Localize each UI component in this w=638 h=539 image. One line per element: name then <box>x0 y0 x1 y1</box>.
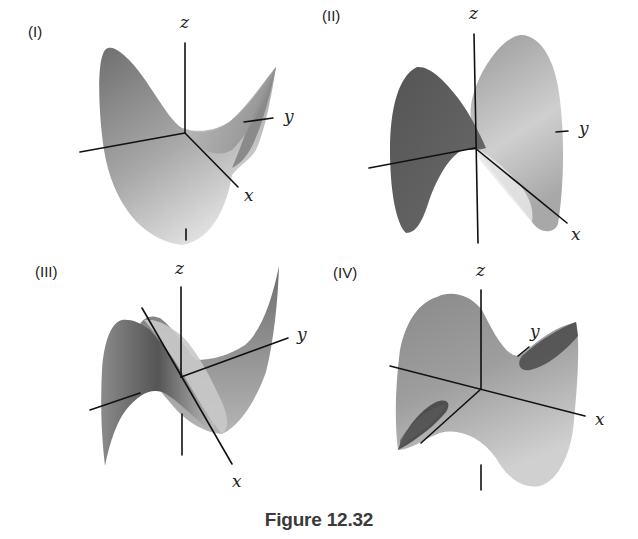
x-axis-label-iv: x <box>595 409 605 429</box>
z-axis-label-i: z <box>179 12 190 32</box>
surface-iii <box>101 266 279 466</box>
panel-ii: (II) z y x <box>322 3 589 244</box>
y-axis-label-iv: y <box>529 321 540 341</box>
x-axis-label-i: x <box>244 185 254 205</box>
x-axis-label-ii: x <box>571 224 581 244</box>
panel-label-ii: (II) <box>322 7 340 24</box>
panel-iv: (IV) z y x <box>333 260 605 490</box>
z-axis-label-iv: z <box>475 260 486 280</box>
panel-label-i: (I) <box>28 23 42 40</box>
panel-iii: (III) z y x <box>35 258 307 491</box>
y-axis-label-ii: y <box>578 118 589 138</box>
panel-label-iv: (IV) <box>333 264 357 281</box>
panel-label-iii: (III) <box>35 263 58 280</box>
z-axis-label-ii: z <box>468 3 479 23</box>
figure-12-32: (I) z y x (II) <box>0 0 638 539</box>
surface-i <box>99 48 276 245</box>
y-axis-label-i: y <box>283 106 294 126</box>
panel-i: (I) z y x <box>28 12 294 245</box>
z-axis-label-iii: z <box>174 258 185 278</box>
y-axis-label-iii: y <box>296 324 307 344</box>
x-axis-label-iii: x <box>232 471 242 491</box>
figure-caption: Figure 12.32 <box>0 509 638 531</box>
